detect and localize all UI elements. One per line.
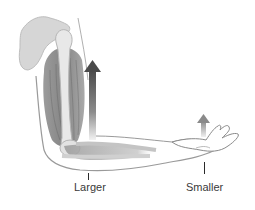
larger-force-arrow [84,60,101,140]
smaller-label-pointer [204,162,205,174]
smaller-label: Smaller [186,181,223,193]
larger-label: Larger [74,181,106,193]
arm-diagram: Larger Smaller [0,0,255,210]
larger-label-pointer [88,173,89,180]
smaller-force-arrow [197,114,210,137]
ulna-bone [62,156,150,157]
arm-illustration [0,0,255,210]
